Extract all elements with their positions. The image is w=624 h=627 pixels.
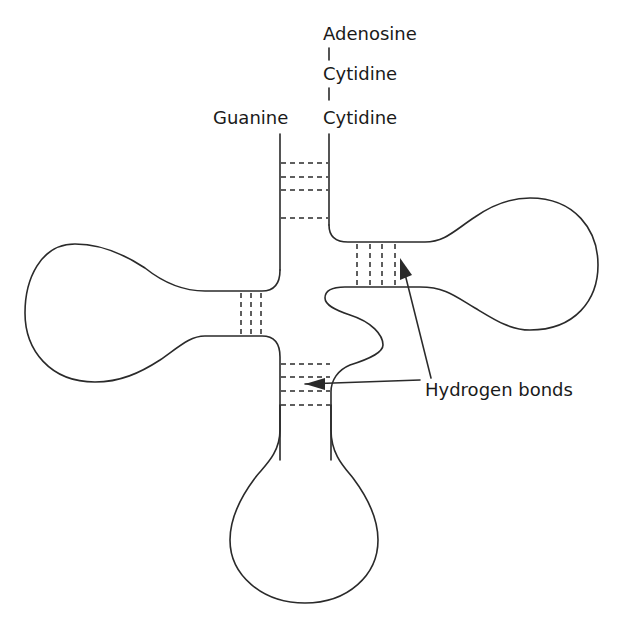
arrow-head-icon [400,258,412,280]
d-arm-loop [25,244,280,460]
d-arm-bonds [241,293,261,335]
cytidine-label-1: Cytidine [323,63,397,84]
t-arm-bonds [357,244,395,286]
adenosine-label: Adenosine [323,23,417,44]
acceptor-stem-bonds [281,163,328,218]
guanine-label: Guanine [213,107,288,128]
arrow-head-icon [305,378,325,390]
trna-diagram: Adenosine Cytidine Cytidine Guanine [0,0,624,627]
arrow-line-t-arm [403,266,431,378]
cytidine-label-2: Cytidine [323,107,397,128]
anticodon-loop [230,405,378,603]
t-arm-and-variable-loop [325,198,598,460]
hydrogen-bonds-label: Hydrogen bonds [425,379,573,400]
